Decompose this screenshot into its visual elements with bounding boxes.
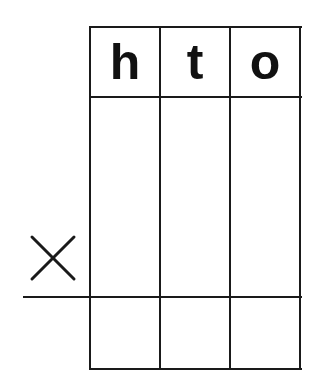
multiplication-sign-icon (29, 234, 77, 282)
column-header-hundreds: h (90, 27, 160, 97)
column-header-tens: t (160, 27, 230, 97)
multiplicand-cell-tens[interactable] (161, 98, 229, 296)
column-header-ones: o (230, 27, 300, 97)
result-cell-tens[interactable] (161, 298, 229, 368)
result-cell-ones[interactable] (231, 298, 299, 368)
multiplicand-cell-hundreds[interactable] (91, 98, 159, 296)
grid-bottom-border (89, 368, 302, 370)
multiplicand-cell-ones[interactable] (231, 98, 299, 296)
result-cell-hundreds[interactable] (91, 298, 159, 368)
